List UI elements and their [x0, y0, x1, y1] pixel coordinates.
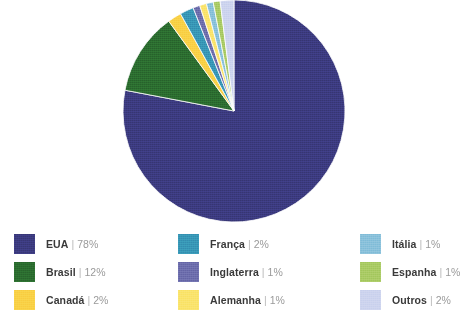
legend-swatch-outros: [360, 290, 381, 310]
legend-value-eua: 78%: [77, 238, 98, 250]
legend-swatch-canada: [14, 290, 35, 310]
legend-value-brasil: 12%: [85, 266, 106, 278]
legend-text-espanha: Espanha|1%: [392, 266, 460, 278]
legend-separator: |: [245, 238, 254, 250]
legend-label-alemanha: Alemanha: [210, 294, 261, 306]
pie-slice-group: EUA 78%Brasil 12%Canadá 2%França 2%Ingla…: [123, 0, 345, 222]
legend-column-2: França|2% Inglaterra|1% Alemanha|1%: [178, 230, 285, 314]
pie-chart-svg: EUA 78%Brasil 12%Canadá 2%França 2%Ingla…: [0, 0, 471, 228]
legend-item-italia[interactable]: Itália|1%: [360, 230, 460, 258]
legend-label-canada: Canadá: [46, 294, 85, 306]
legend-swatch-eua: [14, 234, 35, 254]
legend-label-inglaterra: Inglaterra: [210, 266, 259, 278]
legend-label-brasil: Brasil: [46, 266, 76, 278]
pie-chart: EUA 78%Brasil 12%Canadá 2%França 2%Ingla…: [0, 0, 471, 228]
legend-separator: |: [68, 238, 77, 250]
legend-value-espanha: 1%: [445, 266, 460, 278]
legend-value-inglaterra: 1%: [268, 266, 283, 278]
legend-text-brasil: Brasil|12%: [46, 266, 106, 278]
legend-value-canada: 2%: [93, 294, 108, 306]
legend-separator: |: [427, 294, 436, 306]
legend-label-italia: Itália: [392, 238, 417, 250]
legend-text-inglaterra: Inglaterra|1%: [210, 266, 283, 278]
legend-text-alemanha: Alemanha|1%: [210, 294, 285, 306]
legend-item-eua[interactable]: EUA|78%: [14, 230, 108, 258]
legend-separator: |: [85, 294, 94, 306]
legend-swatch-espanha: [360, 262, 381, 282]
legend-item-canada[interactable]: Canadá|2%: [14, 286, 108, 314]
legend-separator: |: [259, 266, 268, 278]
legend-text-eua: EUA|78%: [46, 238, 98, 250]
legend-text-italia: Itália|1%: [392, 238, 440, 250]
legend-value-franca: 2%: [254, 238, 269, 250]
legend-item-inglaterra[interactable]: Inglaterra|1%: [178, 258, 285, 286]
legend-item-alemanha[interactable]: Alemanha|1%: [178, 286, 285, 314]
legend-value-italia: 1%: [425, 238, 440, 250]
legend-value-outros: 2%: [436, 294, 451, 306]
chart-legend: EUA|78% Brasil|12% Canadá|2% França|2%: [0, 230, 471, 333]
legend-text-canada: Canadá|2%: [46, 294, 108, 306]
legend-text-outros: Outros|2%: [392, 294, 451, 306]
legend-swatch-italia: [360, 234, 381, 254]
legend-item-outros[interactable]: Outros|2%: [360, 286, 460, 314]
legend-swatch-alemanha: [178, 290, 199, 310]
legend-text-franca: França|2%: [210, 238, 269, 250]
legend-label-espanha: Espanha: [392, 266, 436, 278]
legend-item-brasil[interactable]: Brasil|12%: [14, 258, 108, 286]
legend-separator: |: [76, 266, 85, 278]
legend-separator: |: [261, 294, 270, 306]
legend-item-espanha[interactable]: Espanha|1%: [360, 258, 460, 286]
legend-value-alemanha: 1%: [270, 294, 285, 306]
legend-swatch-inglaterra: [178, 262, 199, 282]
legend-item-franca[interactable]: França|2%: [178, 230, 285, 258]
legend-label-outros: Outros: [392, 294, 427, 306]
legend-label-franca: França: [210, 238, 245, 250]
legend-separator: |: [436, 266, 445, 278]
legend-swatch-brasil: [14, 262, 35, 282]
legend-separator: |: [417, 238, 426, 250]
legend-column-1: EUA|78% Brasil|12% Canadá|2%: [14, 230, 108, 314]
legend-column-3: Itália|1% Espanha|1% Outros|2%: [360, 230, 460, 314]
legend-label-eua: EUA: [46, 238, 68, 250]
legend-swatch-franca: [178, 234, 199, 254]
